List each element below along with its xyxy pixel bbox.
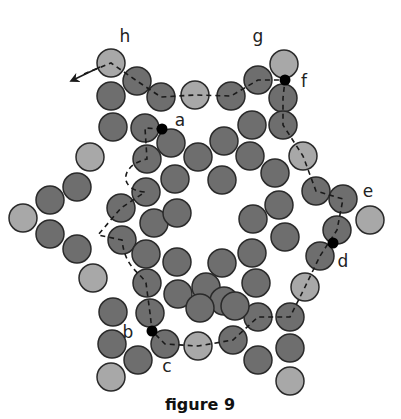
light-bead	[79, 264, 107, 292]
point-label-d: d	[338, 251, 349, 271]
dark-bead	[36, 220, 64, 248]
dark-bead	[238, 111, 266, 139]
light-bead	[9, 204, 37, 232]
dark-bead	[217, 82, 245, 110]
point-label-e: e	[363, 181, 373, 201]
light-bead	[356, 206, 384, 234]
dark-bead	[239, 205, 267, 233]
light-bead	[76, 143, 104, 171]
dark-bead	[132, 178, 160, 206]
dark-bead	[163, 248, 191, 276]
dark-bead	[186, 294, 214, 322]
dark-bead	[210, 127, 238, 155]
point-label-h: h	[120, 26, 131, 46]
dark-bead	[97, 82, 125, 110]
dark-bead	[124, 346, 152, 374]
dark-bead	[63, 173, 91, 201]
dark-bead	[163, 199, 191, 227]
bead-group	[9, 49, 384, 395]
dark-bead	[99, 113, 127, 141]
light-bead	[270, 50, 298, 78]
point-label-a: a	[175, 110, 185, 130]
light-bead	[181, 81, 209, 109]
dark-bead	[276, 334, 304, 362]
point-label-g: g	[253, 26, 264, 46]
dark-bead	[238, 239, 266, 267]
dark-bead	[161, 165, 189, 193]
dark-bead	[242, 269, 270, 297]
dark-bead	[132, 240, 160, 268]
knot-point-d	[328, 238, 339, 249]
point-label-f: f	[301, 71, 308, 91]
dark-bead	[329, 185, 357, 213]
light-bead	[97, 363, 125, 391]
dark-bead	[123, 67, 151, 95]
knot-point-a	[157, 124, 168, 135]
dark-bead	[244, 346, 272, 374]
beadwork-diagram: hgfaedbc figure 9	[0, 0, 401, 419]
light-bead	[276, 367, 304, 395]
direction-arrow-icon	[73, 67, 100, 80]
figure-caption: figure 9	[165, 395, 235, 414]
dark-bead	[184, 143, 212, 171]
knot-point-f	[280, 75, 291, 86]
dark-bead	[131, 114, 159, 142]
dark-bead	[63, 235, 91, 263]
dark-bead	[265, 191, 293, 219]
dark-bead	[236, 142, 264, 170]
dark-bead	[261, 159, 289, 187]
dark-bead	[271, 223, 299, 251]
dark-bead	[107, 194, 135, 222]
dark-bead	[208, 249, 236, 277]
knot-point-b	[147, 326, 158, 337]
point-label-c: c	[162, 356, 171, 376]
dark-bead	[36, 186, 64, 214]
dark-bead	[208, 166, 236, 194]
point-label-b: b	[123, 322, 134, 342]
dark-bead	[221, 292, 249, 320]
